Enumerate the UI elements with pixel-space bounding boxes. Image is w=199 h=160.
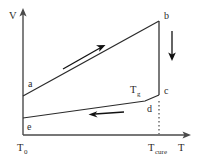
point-label-e: e [27, 121, 32, 132]
volume-temperature-diagram: V T T 0 T cure a b c d e [0, 0, 199, 160]
point-label-a: a [28, 78, 33, 89]
tg-label-base: T [130, 84, 137, 95]
x-tick-origin-base: T [17, 142, 24, 153]
x-axis-label: T [178, 142, 185, 153]
x-tick-cure-base: T [148, 142, 155, 153]
y-axis-label: V [9, 10, 17, 21]
tg-label-subscript: g [137, 90, 141, 98]
segment-a-to-b [23, 21, 159, 96]
point-label-d: d [147, 103, 152, 114]
x-tick-origin-subscript: 0 [24, 148, 28, 156]
point-label-c: c [164, 85, 169, 96]
cooling-direction-arrow [89, 111, 125, 117]
x-tick-origin-label: T 0 [17, 142, 28, 156]
heating-direction-arrow [63, 45, 106, 69]
axes-group [19, 8, 191, 139]
tg-label: T g [130, 84, 141, 98]
diagram-canvas: V T T 0 T cure a b c d e [0, 0, 199, 160]
x-tick-cure-label: T cure [148, 142, 167, 156]
x-tick-cure-subscript: cure [155, 148, 167, 156]
cure-direction-arrow [168, 31, 176, 61]
point-label-b: b [164, 10, 169, 21]
curves-group [23, 21, 159, 134]
